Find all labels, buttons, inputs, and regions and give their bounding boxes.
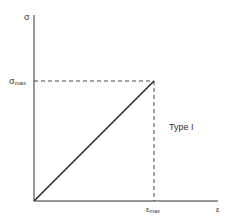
stress-strain-diagram: σ σmax εmax ε Type I <box>0 0 228 224</box>
sigma-max-label: σmax <box>9 76 26 86</box>
epsilon-max-sub: max <box>150 208 161 214</box>
linear-stress-strain-line <box>34 81 154 201</box>
type-annotation: Type I <box>169 122 194 132</box>
x-axis-label: ε <box>216 205 220 214</box>
sigma-max-sub: max <box>15 80 26 86</box>
epsilon-max-label: εmax <box>146 205 160 214</box>
y-axis-label: σ <box>24 12 30 22</box>
